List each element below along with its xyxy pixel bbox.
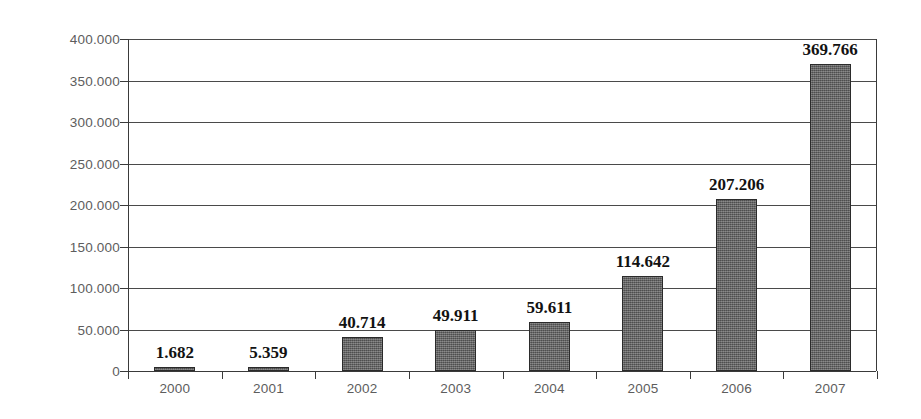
y-axis-label: 50.000 [0, 322, 120, 337]
bar-2000 [154, 367, 195, 371]
x-axis-label-2005: 2005 [596, 381, 689, 396]
bar-2005 [622, 276, 663, 371]
y-axis-tick [120, 371, 128, 372]
y-axis-label: 150.000 [0, 239, 120, 254]
y-axis-label: 400.000 [0, 32, 120, 47]
value-label-2004: 59.611 [474, 298, 624, 318]
y-axis-tick [120, 122, 128, 123]
value-label-2005: 114.642 [568, 252, 718, 272]
y-axis-tick [120, 205, 128, 206]
y-axis-tick [120, 330, 128, 331]
y-axis-tick [120, 247, 128, 248]
x-axis-tick [783, 371, 784, 379]
value-label-2007: 369.766 [755, 40, 905, 60]
y-axis-tick [120, 288, 128, 289]
x-axis-tick [596, 371, 597, 379]
x-axis-tick [409, 371, 410, 379]
gridline [129, 122, 876, 123]
x-axis-label-2004: 2004 [503, 381, 596, 396]
x-axis-tick [128, 371, 129, 379]
gridline [129, 288, 876, 289]
x-axis-tick [315, 371, 316, 379]
x-axis-label-2003: 2003 [409, 381, 502, 396]
gridline [129, 205, 876, 206]
bar-2003 [435, 330, 476, 371]
y-axis-tick [120, 39, 128, 40]
x-axis-label-2006: 2006 [690, 381, 783, 396]
gridline [129, 247, 876, 248]
bar-2002 [342, 337, 383, 371]
x-axis-tick [222, 371, 223, 379]
x-axis-label-2000: 2000 [128, 381, 221, 396]
gridline [129, 164, 876, 165]
y-axis-label: 100.000 [0, 281, 120, 296]
bar-2001 [248, 367, 289, 371]
y-axis-label: 200.000 [0, 198, 120, 213]
x-axis-tick [690, 371, 691, 379]
y-axis-label: 350.000 [0, 73, 120, 88]
x-axis-label-2007: 2007 [784, 381, 877, 396]
bar-2007 [810, 64, 851, 371]
value-label-2006: 207.206 [662, 175, 812, 195]
bar-chart: 050.000100.000150.000200.000250.000300.0… [0, 0, 921, 419]
x-axis-label-2001: 2001 [222, 381, 315, 396]
gridline [129, 81, 876, 82]
y-axis-label: 250.000 [0, 156, 120, 171]
x-axis-tick [877, 371, 878, 379]
y-axis-label: 300.000 [0, 115, 120, 130]
gridline [129, 330, 876, 331]
x-axis-label-2002: 2002 [316, 381, 409, 396]
bar-2004 [529, 322, 570, 371]
y-axis-tick [120, 81, 128, 82]
y-axis-tick [120, 164, 128, 165]
bar-2006 [716, 199, 757, 371]
y-axis-label: 0 [0, 364, 120, 379]
value-label-2001: 5.359 [193, 343, 343, 363]
x-axis-tick [503, 371, 504, 379]
